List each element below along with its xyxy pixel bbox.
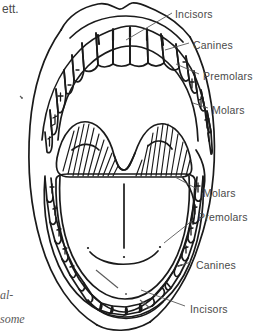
tongue-dot-right xyxy=(159,246,161,248)
label-lower-canines: Canines xyxy=(196,259,236,271)
leader-lower-incisors xyxy=(141,290,185,306)
label-lower-molars: Molars xyxy=(203,187,236,199)
tongue-dot-left xyxy=(87,247,89,249)
tooth-lower-incisor-L2 xyxy=(79,283,93,302)
tooth-lower-molar-R3 xyxy=(195,177,203,201)
label-lower-incisors: Incisors xyxy=(190,303,228,315)
page-edge-text-top-left: ett. xyxy=(2,2,19,16)
label-upper-incisors: Incisors xyxy=(175,8,213,20)
label-upper-molars: Molars xyxy=(212,104,245,116)
lower-lip-outline xyxy=(97,322,150,330)
label-upper-canines: Canines xyxy=(193,39,233,51)
tongue xyxy=(56,174,195,312)
upper-lip-outline xyxy=(61,3,190,37)
tongue-dot-center xyxy=(123,256,125,258)
label-upper-premolars: Premolars xyxy=(203,70,253,82)
label-lower-premolars: Premolars xyxy=(198,211,248,223)
page-edge-text-bottom-1: al- xyxy=(0,288,13,303)
page-edge-text-bottom-2: some xyxy=(0,312,25,327)
upper-gum-line xyxy=(70,16,183,42)
